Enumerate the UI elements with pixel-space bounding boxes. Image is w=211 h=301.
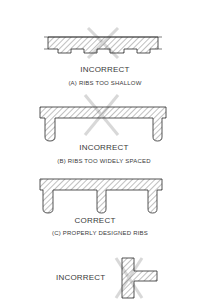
wide-spaced-rib-slab [40, 107, 166, 141]
panel-c-status-label: CORRECT [60, 216, 130, 225]
panel-c-caption: (C) PROPERLY DESIGNED RIBS [30, 230, 170, 236]
panel-b-caption: (B) RIBS TOO WIDELY SPACED [34, 158, 174, 164]
panel-a-diagram [44, 28, 162, 58]
panel-a-caption: (A) RIBS TOO SHALLOW [40, 80, 170, 86]
panel-b-diagram [40, 95, 166, 141]
shallow-rib-slab [48, 37, 158, 53]
panel-d-status-label: INCORRECT [56, 273, 110, 282]
proper-rib-slab [40, 179, 162, 213]
panel-c-diagram [40, 179, 162, 213]
panel-b-status-label: INCORRECT [69, 143, 139, 152]
panel-d-diagram [116, 258, 157, 298]
panel-a-status-label: INCORRECT [70, 65, 140, 74]
